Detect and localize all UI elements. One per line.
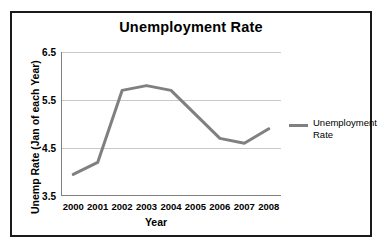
x-tick-label: 2002: [110, 201, 134, 212]
x-tick-label: 2004: [159, 201, 183, 212]
y-tick-label: 5.5: [42, 95, 56, 106]
chart-plot-svg: [61, 52, 281, 196]
legend-line-swatch-icon: [289, 124, 308, 127]
x-axis-title: Year: [40, 216, 272, 228]
chart-figure: Unemployment Rate Unemp Rate (Jan of eac…: [10, 11, 372, 237]
plot-area: 3.54.55.56.5 200020012002200320042005200…: [61, 52, 281, 196]
x-tick-label: 2000: [61, 201, 85, 212]
y-tick-label: 6.5: [42, 47, 56, 58]
y-axis-title: Unemp Rate (Jan of each Year): [29, 64, 41, 214]
x-tick-label: 2008: [257, 201, 281, 212]
y-tick-label: 4.5: [42, 143, 56, 154]
x-tick-label: 2005: [183, 201, 207, 212]
series-line: [73, 86, 269, 175]
x-tick-label: 2007: [232, 201, 256, 212]
x-tick-label: 2001: [85, 201, 109, 212]
chart-title: Unemployment Rate: [12, 19, 370, 35]
y-tick-label: 3.5: [42, 191, 56, 202]
chart-legend: Unemployment Rate: [289, 117, 371, 140]
x-tick-labels: 200020012002200320042005200620072008: [61, 201, 281, 212]
x-tick-label: 2006: [208, 201, 232, 212]
legend-label: Unemployment Rate: [313, 117, 377, 140]
x-tick-label: 2003: [134, 201, 158, 212]
